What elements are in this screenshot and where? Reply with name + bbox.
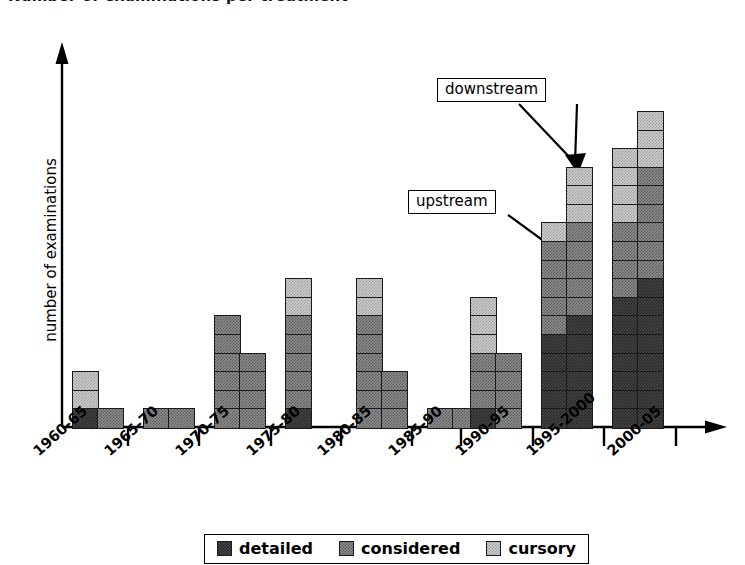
bar-cell-considered [541, 297, 568, 317]
bar-cell-cursory [637, 130, 664, 150]
bar-cell-considered [541, 241, 568, 261]
bar-cell-considered [637, 185, 664, 205]
bar-cell-considered [285, 353, 312, 373]
legend-swatch-detailed-icon [217, 541, 232, 556]
bar-cell-cursory [612, 204, 639, 224]
bar-cell-considered [541, 315, 568, 335]
bar-cell-considered [470, 390, 497, 410]
bar-cell-considered [356, 353, 383, 373]
bar-cell-considered [214, 353, 241, 373]
bar-cell-cursory [612, 148, 639, 168]
bar-cell-detailed [612, 334, 639, 354]
bar-cell-considered [356, 334, 383, 354]
bar-cell-detailed [541, 371, 568, 391]
bar-cell-detailed [541, 390, 568, 410]
annotation-downstream: downstream [437, 78, 546, 102]
bar-cell-considered [541, 260, 568, 280]
bar-cell-cursory [356, 297, 383, 317]
bar-cell-cursory [637, 148, 664, 168]
bar-cell-detailed [612, 371, 639, 391]
bar-cell-considered [97, 408, 124, 428]
bar-cell-considered [381, 371, 408, 391]
bar-cell-considered [214, 315, 241, 335]
bar-cell-considered [637, 204, 664, 224]
legend-label: considered [361, 539, 460, 558]
bar-cell-cursory [356, 278, 383, 298]
bar-cell-considered [381, 390, 408, 410]
legend-swatch-considered-icon [339, 541, 354, 556]
bar-cell-considered [285, 315, 312, 335]
bar-1960-65-downstream[interactable] [97, 408, 124, 427]
bar-cell-considered [214, 334, 241, 354]
bar-cell-considered [381, 408, 408, 428]
bar-cell-considered [637, 167, 664, 187]
bar-cell-detailed [566, 315, 593, 335]
bar-cell-considered [356, 315, 383, 335]
bar-cell-considered [637, 241, 664, 261]
bar-cell-cursory [612, 185, 639, 205]
legend-item-considered[interactable]: considered [339, 539, 460, 558]
legend-label: detailed [239, 539, 313, 558]
bar-1965-70-downstream[interactable] [168, 408, 195, 427]
bar-1980-85-downstream[interactable] [381, 371, 408, 427]
legend-item-detailed[interactable]: detailed [217, 539, 313, 558]
chart-legend: detailedconsideredcursory [204, 534, 589, 564]
bar-cell-considered [612, 222, 639, 242]
bar-cell-considered [566, 241, 593, 261]
bar-cell-cursory [470, 297, 497, 317]
bar-cell-considered [566, 260, 593, 280]
bars-layer [0, 0, 745, 565]
bar-cell-cursory [470, 334, 497, 354]
bar-cell-detailed [541, 334, 568, 354]
bar-cell-detailed [566, 371, 593, 391]
bar-cell-detailed [637, 353, 664, 373]
bar-cell-considered [239, 390, 266, 410]
bar-cell-detailed [612, 353, 639, 373]
bar-cell-detailed [637, 334, 664, 354]
bar-cell-considered [566, 222, 593, 242]
bar-1995-2000-upstream[interactable] [541, 222, 568, 427]
bar-cell-detailed [566, 334, 593, 354]
chart-plot-area: number of examinations [0, 0, 745, 565]
bar-cell-cursory [285, 297, 312, 317]
bar-cell-considered [470, 353, 497, 373]
bar-cell-detailed [637, 315, 664, 335]
bar-2000-05-downstream[interactable] [637, 111, 664, 427]
bar-cell-cursory [612, 167, 639, 187]
bar-cell-considered [566, 278, 593, 298]
bar-2000-05-upstream[interactable] [612, 148, 639, 427]
bar-cell-detailed [612, 297, 639, 317]
bar-cell-considered [168, 408, 195, 428]
bar-cell-detailed [612, 390, 639, 410]
bar-1990-95-upstream[interactable] [470, 297, 497, 427]
bar-cell-considered [356, 371, 383, 391]
bar-cell-cursory [566, 167, 593, 187]
bar-cell-detailed [541, 353, 568, 373]
legend-item-cursory[interactable]: cursory [486, 539, 576, 558]
bar-cell-considered [239, 353, 266, 373]
bar-1970-75-downstream[interactable] [239, 353, 266, 427]
bar-cell-considered [541, 278, 568, 298]
legend-label: cursory [508, 539, 576, 558]
annotation-upstream: upstream [408, 190, 496, 214]
bar-cell-detailed [637, 278, 664, 298]
bar-cell-considered [495, 371, 522, 391]
bar-cell-cursory [566, 204, 593, 224]
bar-cell-considered [637, 260, 664, 280]
bar-cell-considered [239, 371, 266, 391]
bar-cell-detailed [637, 297, 664, 317]
bar-cell-detailed [637, 371, 664, 391]
bar-cell-considered [285, 334, 312, 354]
bar-cell-cursory [285, 278, 312, 298]
bar-cell-considered [470, 371, 497, 391]
bar-1995-2000-downstream[interactable] [566, 167, 593, 427]
bar-cell-considered [612, 278, 639, 298]
bar-cell-cursory [470, 315, 497, 335]
bar-cell-considered [566, 297, 593, 317]
bar-cell-detailed [566, 353, 593, 373]
bar-cell-considered [612, 241, 639, 261]
bar-cell-cursory [541, 222, 568, 242]
bar-cell-considered [285, 371, 312, 391]
bar-cell-cursory [566, 185, 593, 205]
bar-cell-considered [612, 260, 639, 280]
